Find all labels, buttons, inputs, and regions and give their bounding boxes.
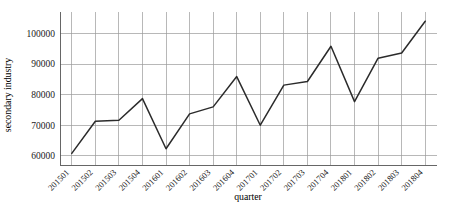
x-tick-label: 201801 bbox=[329, 167, 354, 192]
y-tick-labels: 60000700008000090000100000 bbox=[27, 29, 56, 161]
line-chart: 60000700008000090000100000 2015012015022… bbox=[0, 0, 461, 212]
x-tick-label: 201703 bbox=[282, 167, 307, 192]
x-tick-label: 201803 bbox=[376, 167, 401, 192]
data-series-line bbox=[72, 21, 425, 153]
x-tick-labels: 2015012015022015032015042016012016022016… bbox=[46, 167, 425, 193]
x-tick-label: 201604 bbox=[211, 167, 237, 193]
x-tick-label: 201701 bbox=[234, 167, 259, 192]
x-tick-label: 201602 bbox=[164, 167, 189, 192]
y-tick-label: 90000 bbox=[31, 59, 55, 69]
y-tick-label: 70000 bbox=[31, 121, 55, 131]
horizontal-gridlines bbox=[60, 33, 437, 155]
x-tick-label: 201802 bbox=[352, 167, 377, 192]
chart-canvas: 60000700008000090000100000 2015012015022… bbox=[0, 0, 461, 212]
x-tick-label: 201704 bbox=[305, 167, 331, 193]
x-tick-label: 201603 bbox=[187, 167, 212, 192]
x-axis-title: quarter bbox=[234, 191, 262, 202]
vertical-gridlines bbox=[72, 12, 425, 165]
y-tick-label: 80000 bbox=[31, 90, 55, 100]
x-tick-label: 201504 bbox=[117, 167, 143, 193]
y-tick-label: 60000 bbox=[31, 151, 55, 161]
x-tick-label: 201502 bbox=[69, 167, 94, 192]
x-tick-label: 201601 bbox=[140, 167, 165, 192]
x-tick-label: 201503 bbox=[93, 167, 118, 192]
y-axis-title: secondary industry bbox=[2, 58, 13, 132]
x-tick-label: 201501 bbox=[46, 167, 71, 192]
x-tick-label: 201804 bbox=[399, 167, 425, 193]
x-tick-label: 201702 bbox=[258, 167, 283, 192]
y-tick-label: 100000 bbox=[27, 29, 56, 39]
